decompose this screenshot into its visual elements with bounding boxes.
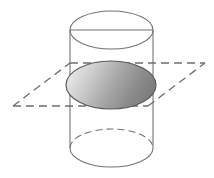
cylinder-plane-diagram — [0, 0, 214, 178]
figure-container — [0, 0, 214, 178]
elliptical-cross-section — [66, 61, 156, 109]
